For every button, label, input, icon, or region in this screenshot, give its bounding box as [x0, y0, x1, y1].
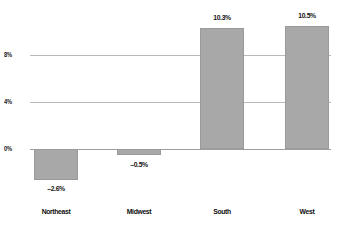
category-label-midwest: Midwest — [115, 207, 163, 216]
category-label-northeast: Northeast — [32, 207, 80, 216]
ytick-label-0: 0% — [4, 145, 22, 153]
bar-west — [285, 26, 329, 149]
bar-midwest — [117, 149, 161, 155]
ytick-label-8: 8% — [4, 51, 22, 59]
ytick-label-4: 4% — [4, 98, 22, 106]
value-label-west: 10.5% — [288, 11, 325, 20]
value-label-midwest: –0.5% — [120, 160, 157, 169]
category-label-west: West — [283, 207, 331, 216]
plot-area: 8% 4% 0% –2.6% –0.5% 10.3% 10.5% Northea… — [0, 0, 349, 231]
value-label-northeast: –2.6% — [37, 184, 74, 193]
bar-south — [200, 28, 244, 149]
bar-chart: 8% 4% 0% –2.6% –0.5% 10.3% 10.5% Northea… — [0, 0, 349, 231]
category-label-south: South — [198, 207, 246, 216]
bar-northeast — [34, 149, 78, 180]
value-label-south: 10.3% — [203, 13, 240, 22]
